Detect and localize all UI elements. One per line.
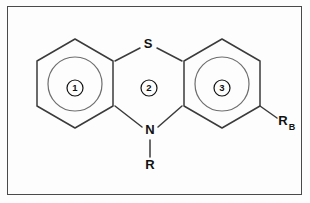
bond-s-to-ring1	[115, 48, 140, 61]
ring-number-2: 2	[141, 80, 157, 96]
ring-number-3: 3	[214, 80, 230, 96]
bond-s-to-ring3	[157, 48, 182, 61]
ring3-substituent-label: R	[278, 113, 288, 128]
bond-ring3-to-rb	[260, 106, 277, 118]
ring3-substituent-subscript: B	[289, 122, 296, 132]
figure-canvas: S N R R B 1 2 3	[0, 0, 310, 203]
ring-number-3-label: 3	[219, 82, 224, 93]
ring-number-2-label: 2	[146, 82, 151, 93]
ring-number-1-label: 1	[72, 82, 78, 93]
bond-n-to-ring1	[115, 106, 142, 127]
bond-n-to-ring3	[158, 106, 182, 127]
n-substituent-label: R	[145, 157, 155, 172]
nitrogen-atom-label: N	[145, 122, 154, 137]
sulfur-atom-label: S	[144, 36, 153, 51]
phenothiazine-structure: S N R R B 1 2 3	[0, 0, 310, 203]
ring-number-1: 1	[67, 80, 83, 96]
